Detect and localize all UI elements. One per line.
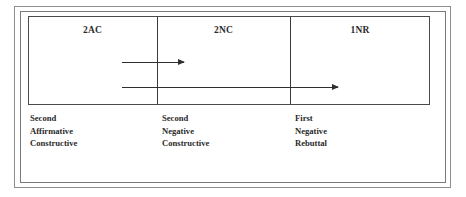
caption-second-affirmative-constructive: Second Affirmative Constructive [30, 112, 162, 150]
column-header-2ac: 2AC [28, 20, 157, 40]
caption-line: Second [30, 112, 162, 125]
caption-line: Second [162, 112, 295, 125]
caption-line: First [295, 112, 430, 125]
caption-line: Constructive [30, 137, 162, 150]
column-header-1nr: 1NR [290, 20, 430, 40]
caption-line: Rebuttal [295, 137, 430, 150]
caption-line: Affirmative [30, 125, 162, 138]
arrow-2ac-to-2nc [122, 62, 184, 63]
figure-container: 2AC 2NC 1NR Second Affirmative Construct… [0, 0, 466, 197]
caption-line: Negative [162, 125, 295, 138]
caption-first-negative-rebuttal: First Negative Rebuttal [295, 112, 430, 150]
caption-second-negative-constructive: Second Negative Constructive [162, 112, 295, 150]
caption-line: Negative [295, 125, 430, 138]
caption-row: Second Affirmative Constructive Second N… [30, 112, 430, 150]
caption-line: Constructive [162, 137, 295, 150]
column-header-row: 2AC 2NC 1NR [28, 20, 430, 40]
column-header-2nc: 2NC [157, 20, 290, 40]
arrow-2ac-to-1nr [122, 87, 338, 88]
